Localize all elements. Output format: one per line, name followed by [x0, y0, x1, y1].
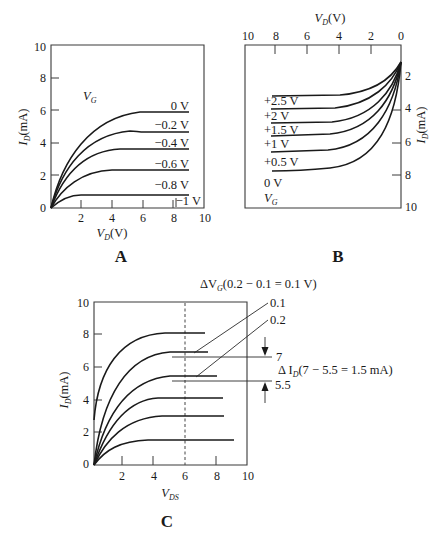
annotation-level-7: 7 [276, 350, 282, 364]
series-label: +0.5 V [264, 155, 299, 169]
curve-4 [94, 398, 223, 465]
annotation-label-0.2: 0.2 [270, 313, 286, 327]
series-label: −0.2 V [154, 118, 189, 132]
chart-a: 10 8 6 4 2 0 2 4 6 8 10 VG [16, 40, 211, 266]
y-tick-label: 4 [405, 101, 411, 115]
series-label: 0 V [171, 99, 189, 113]
series-label: −0.8 V [154, 178, 189, 192]
y-tick-label: 8 [405, 168, 411, 182]
series-label: −0.4 V [154, 136, 189, 150]
x-tick-label: 8 [273, 29, 279, 43]
y-tick-label: 8 [83, 327, 89, 341]
y-tick-label: 0 [83, 457, 89, 471]
leader-line-0.2 [196, 320, 268, 377]
series-label: −0.6 V [154, 157, 189, 171]
x-tick-label: 4 [336, 29, 342, 43]
x-tick-label: 10 [242, 29, 254, 43]
annotation-delta-id: Δ ID(7 − 5.5 = 1.5 mA) [278, 363, 393, 379]
panel-label-c: C [161, 512, 173, 531]
series-label: +2.5 V [264, 94, 299, 108]
leader-line-0.1 [194, 303, 268, 353]
y-tick-label: 2 [40, 169, 46, 183]
x-tick-label: 8 [171, 211, 177, 225]
x-tick-label: 6 [140, 211, 146, 225]
series-label: +1.5 V [264, 123, 299, 137]
chart-c-x-ticks: 2 4 6 8 10 [119, 456, 254, 483]
chart-c: 10 8 6 4 2 0 2 4 6 8 10 [57, 277, 393, 531]
annotation-label-0.1: 0.1 [270, 296, 286, 310]
curve-vg-neg1 [51, 195, 189, 208]
panel-label-b: B [332, 247, 343, 266]
chart-b: 10 8 6 4 2 0 2 4 6 8 10 +2 [242, 11, 430, 266]
chart-c-x-title: VDS [161, 486, 178, 502]
y-tick-label: 6 [405, 135, 411, 149]
x-tick-label: 2 [368, 29, 374, 43]
series-label: −1 V [176, 194, 201, 208]
annotation-delta-vg: ΔVG(0.2 − 0.1 = 0.1 V) [200, 277, 317, 293]
chart-b-x-ticks: 10 8 6 4 2 0 [242, 29, 404, 54]
curve-vg-1.5 [271, 62, 401, 123]
annotation-level-5.5: 5.5 [275, 378, 291, 392]
panel-label-a: A [115, 247, 128, 266]
y-tick-label: 4 [40, 136, 46, 150]
legend-title: VG [264, 191, 278, 207]
chart-c-y-title: ID(mA) [57, 371, 73, 409]
chart-a-y-title: ID(mA) [16, 108, 32, 146]
x-tick-label: 0 [398, 29, 404, 43]
x-tick-label: 4 [109, 211, 115, 225]
chart-a-y-ticks: 10 8 6 4 2 0 [34, 40, 59, 215]
x-tick-label: 10 [199, 211, 211, 225]
series-label: +2 V [264, 109, 289, 123]
y-tick-label: 10 [34, 40, 46, 54]
x-tick-label: 2 [78, 211, 84, 225]
x-tick-label: 10 [242, 469, 254, 483]
x-tick-label: 6 [304, 29, 310, 43]
y-tick-label: 8 [40, 71, 46, 85]
y-tick-label: 6 [40, 104, 46, 118]
arrow-down-icon [262, 337, 269, 356]
y-tick-label: 2 [405, 69, 411, 83]
chart-a-x-title: VD(V) [97, 226, 128, 242]
chart-c-annotations: 0.1 0.2 7 5.5 Δ ID(7 − 5.5 = 1.5 mA) ΔVG… [172, 277, 393, 403]
y-tick-label: 4 [83, 393, 89, 407]
chart-c-y-ticks: 10 8 6 4 2 0 [77, 296, 102, 471]
curve-6 [94, 440, 234, 465]
y-tick-label: 2 [83, 425, 89, 439]
x-tick-label: 2 [119, 469, 125, 483]
curve-vg-0.1 [94, 352, 208, 465]
chart-c-curves [94, 333, 234, 465]
y-tick-label: 10 [77, 296, 89, 310]
y-tick-label: 0 [40, 201, 46, 215]
series-label: 0 V [264, 176, 282, 190]
x-tick-label: 4 [151, 469, 157, 483]
arrow-up-icon [262, 382, 269, 403]
x-tick-label: 8 [214, 469, 220, 483]
series-label: +1 V [264, 137, 289, 151]
x-tick-label: 6 [182, 469, 188, 483]
y-tick-label: 6 [83, 360, 89, 374]
legend-title: VG [83, 89, 97, 105]
chart-b-x-title: VD(V) [315, 11, 346, 27]
curve-vg-0.2 [94, 376, 217, 465]
chart-b-y-title: ID(mA) [414, 106, 430, 144]
figure-canvas: 10 8 6 4 2 0 2 4 6 8 10 VG [0, 0, 441, 538]
curve-vg-2.5 [272, 62, 401, 96]
y-tick-label: 10 [405, 200, 417, 214]
